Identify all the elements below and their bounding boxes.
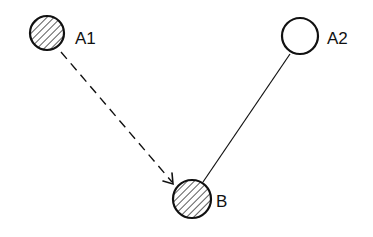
dashed-arrow-line xyxy=(61,52,172,182)
node-a2-label: A2 xyxy=(327,29,348,48)
node-b-label: B xyxy=(216,192,227,211)
edge-a2-to-b xyxy=(203,54,290,182)
node-b[interactable]: B xyxy=(173,180,227,218)
diagram-canvas: A1 A2 B xyxy=(0,0,373,237)
edge-a1-to-b xyxy=(61,52,173,184)
node-a2[interactable]: A2 xyxy=(282,18,348,54)
node-a1-circle[interactable] xyxy=(30,16,64,50)
node-b-circle[interactable] xyxy=(173,180,211,218)
node-a2-circle[interactable] xyxy=(282,18,318,54)
node-a1[interactable]: A1 xyxy=(30,16,96,50)
node-a1-label: A1 xyxy=(75,29,96,48)
